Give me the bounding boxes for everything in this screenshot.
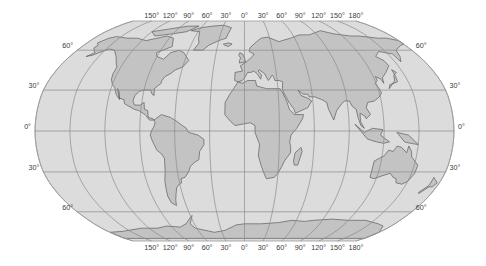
lon-label-top: 60° [202, 11, 213, 20]
lon-label-top: 0° [241, 11, 248, 20]
lon-label-bottom: 60° [202, 243, 213, 252]
lon-label-bottom: 30° [220, 243, 231, 252]
lon-label-bottom: 150° [144, 243, 159, 252]
lat-label-left: 30° [29, 81, 40, 90]
lon-label-top: 150° [330, 11, 345, 20]
lon-label-top: 120° [311, 11, 326, 20]
longitude-labels-bottom: 150° 120° 90° 60° 30° 0° 30° 60° 90° 120… [144, 243, 363, 252]
lat-label-right: 60° [416, 41, 427, 50]
lon-label-top: 150° [144, 11, 159, 20]
world-map: 150° 120° 90° 60° 30° 0° 30° 60° 90° 120… [0, 0, 486, 266]
robinson-world-map-svg: 150° 120° 90° 60° 30° 0° 30° 60° 90° 120… [0, 0, 486, 266]
lat-label-right: 60° [416, 203, 427, 212]
lon-label-bottom: 30° [258, 243, 269, 252]
lat-label-left: 0° [24, 122, 31, 131]
lon-label-bottom: 120° [163, 243, 178, 252]
lon-label-top: 90° [295, 11, 306, 20]
lon-label-bottom: 90° [183, 243, 194, 252]
lat-label-left: 60° [62, 41, 73, 50]
longitude-labels-top: 150° 120° 90° 60° 30° 0° 30° 60° 90° 120… [144, 11, 363, 20]
lon-label-bottom: 150° [330, 243, 345, 252]
lat-label-left: 60° [62, 203, 73, 212]
lon-label-bottom: 180° [349, 243, 364, 252]
lat-label-right: 30° [450, 163, 461, 172]
lon-label-bottom: 90° [295, 243, 306, 252]
lon-label-top: 90° [183, 11, 194, 20]
lat-label-right: 30° [450, 81, 461, 90]
lon-label-top: 30° [258, 11, 269, 20]
lon-label-top: 60° [276, 11, 287, 20]
lon-label-bottom: 0° [241, 243, 248, 252]
lon-label-top: 30° [220, 11, 231, 20]
lat-label-right: 0° [458, 122, 465, 131]
lon-label-top: 180° [349, 11, 364, 20]
lon-label-bottom: 60° [276, 243, 287, 252]
lon-label-top: 120° [163, 11, 178, 20]
lat-label-left: 30° [29, 163, 40, 172]
lon-label-bottom: 120° [311, 243, 326, 252]
